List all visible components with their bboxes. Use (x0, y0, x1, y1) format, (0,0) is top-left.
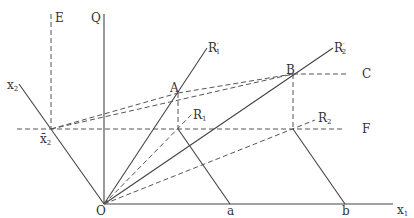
ray-r1 (104, 113, 193, 204)
label-x2: x2 (7, 78, 18, 93)
x2-axis (19, 84, 104, 204)
label-b-point: B (286, 63, 295, 77)
label-x2bar: x̄2 (40, 132, 51, 147)
label-a-axis: a (227, 204, 234, 218)
line-r1-to-a (178, 129, 230, 204)
label-c: C (362, 67, 371, 81)
geometric-diagram: E Q x2 x̄2 R′1 R′2 A B C R1 R2 F O a b x… (0, 0, 414, 218)
label-a-point: A (169, 81, 179, 95)
label-r2-prime: R′2 (334, 41, 346, 56)
dash-a-to-b (178, 74, 293, 93)
label-f: F (362, 122, 370, 136)
label-r1-prime: R′1 (208, 41, 220, 56)
label-x1: x1 (397, 203, 408, 218)
label-r2: R2 (318, 111, 332, 126)
label-q: Q (91, 11, 101, 25)
label-e: E (55, 11, 64, 25)
label-origin: O (96, 204, 106, 218)
label-r1: R1 (193, 108, 207, 123)
line-r2-to-b (293, 129, 345, 204)
ray-r1-prime (104, 48, 207, 204)
label-b-axis: b (342, 204, 350, 218)
dash-x2bar-to-a (51, 93, 178, 129)
